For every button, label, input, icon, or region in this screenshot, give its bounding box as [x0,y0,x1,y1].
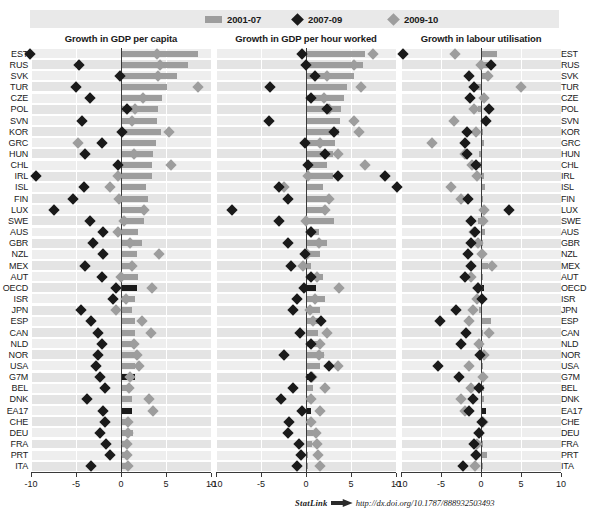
bar-CAN [306,330,318,336]
chart-panel-2: -10-50510 [216,48,396,472]
bar-DNK [121,396,132,402]
x-tick-label--5: -5 [63,479,89,489]
bar-ESP [121,318,135,324]
country-label-right-CHL: CHL [561,160,589,170]
gridline-x--5 [76,48,77,472]
country-label-left-ESP: ESP [0,316,28,326]
panel-title-1: Growth in GDP per capita [31,33,211,46]
country-label-right-USA: USA [561,361,589,371]
country-label-left-SVK: SVK [0,71,28,81]
country-label-right-FRA: FRA [561,439,589,449]
x-tick-label--10: -10 [203,479,229,489]
chart-legend: 2001-072007-092009-10 [30,10,559,28]
x-tick--5 [76,473,77,477]
country-label-right-RUS: RUS [561,60,589,70]
legend-item-label: 2009-10 [404,14,438,25]
country-label-left-NOR: NOR [0,350,28,360]
country-label-left-NZL: NZL [0,249,28,259]
country-label-right-KOR: KOR [561,127,589,137]
plot-area [31,48,211,472]
x-tick-label-0: 0 [108,479,134,489]
country-label-right-ITA: ITA [561,461,589,471]
country-label-left-LUX: LUX [0,205,28,215]
country-label-left-GBR: GBR [0,238,28,248]
country-label-right-MEX: MEX [561,261,589,271]
country-label-right-CZE: CZE [561,93,589,103]
x-tick-label-5: 5 [153,479,179,489]
country-label-right-ISR: ISR [561,294,589,304]
country-label-left-FIN: FIN [0,194,28,204]
bar-OECD [121,285,137,291]
statlink-arrow-icon [331,499,353,507]
plot-area [216,48,396,472]
country-label-right-IRL: IRL [561,171,589,181]
country-label-left-ITA: ITA [0,461,28,471]
x-tick-label-10: 10 [548,479,574,489]
country-label-right-TUR: TUR [561,82,589,92]
country-label-left-DEU: DEU [0,428,28,438]
legend-item-2001-07: 2001-07 [205,10,261,28]
country-label-left-HUN: HUN [0,149,28,159]
country-label-right-BEL: BEL [561,383,589,393]
country-label-left-DNK: DNK [0,394,28,404]
x-tick-label--10: -10 [18,479,44,489]
x-tick-5 [166,473,167,477]
plot-area [401,48,561,472]
bar-EA17 [121,408,132,414]
country-label-left-MEX: MEX [0,261,28,271]
x-tick-0 [121,473,122,477]
country-label-left-BEL: BEL [0,383,28,393]
x-tick-label--5: -5 [428,479,454,489]
bar-TUR [121,84,167,90]
country-label-left-GRC: GRC [0,138,28,148]
statlink-url[interactable]: http://dx.doi.org/10.1787/888932503493 [356,498,495,508]
country-label-left-SWE: SWE [0,216,28,226]
gridline-x--5 [441,48,442,472]
bar-USA [306,363,320,369]
country-label-right-SWE: SWE [561,216,589,226]
x-tick-5 [521,473,522,477]
x-tick-5 [351,473,352,477]
country-label-right-ESP: ESP [561,316,589,326]
country-label-left-OECD: OECD [0,283,28,293]
bar-GRC [121,140,156,146]
country-label-left-IRL: IRL [0,171,28,181]
country-label-left-ISR: ISR [0,294,28,304]
x-tick-0 [306,473,307,477]
x-tick-0 [481,473,482,477]
country-label-left-EA17: EA17 [0,406,28,416]
country-label-right-DEU: DEU [561,428,589,438]
chart-panel-1: -10-50510 [31,48,211,472]
bar-TUR [306,84,347,90]
bar-EST [481,51,497,57]
legend-diamond-wrap [388,14,399,25]
bar-EST [306,51,365,57]
gridline-x-5 [166,48,167,472]
bar-BEL [306,385,313,391]
country-label-right-DNK: DNK [561,394,589,404]
bar-JPN [121,307,132,313]
x-tick-label-0: 0 [468,479,494,489]
x-tick-label-5: 5 [338,479,364,489]
x-tick-label--10: -10 [388,479,414,489]
legend-diamond-swatch [291,13,304,26]
x-tick--5 [441,473,442,477]
legend-diamond-wrap [292,14,303,25]
country-label-right-FIN: FIN [561,194,589,204]
country-label-right-SVN: SVN [561,116,589,126]
country-label-right-GRC: GRC [561,138,589,148]
legend-diamond-swatch [387,13,400,26]
country-label-right-EST: EST [561,49,589,59]
country-label-right-NZL: NZL [561,249,589,259]
country-label-left-KOR: KOR [0,127,28,137]
bar-CAN [121,330,135,336]
country-label-left-POL: POL [0,104,28,114]
x-tick-label-5: 5 [508,479,534,489]
chart-panel-3: -10-50510 [401,48,561,472]
country-label-left-TUR: TUR [0,82,28,92]
bar-CHL [121,162,152,168]
country-label-right-CAN: CAN [561,328,589,338]
country-label-right-NOR: NOR [561,350,589,360]
country-label-left-RUS: RUS [0,60,28,70]
bar-ISL [306,184,323,190]
